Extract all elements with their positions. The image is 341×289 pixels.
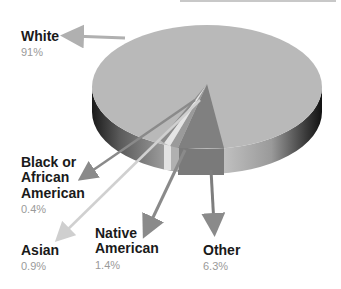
- label-black-name-3: American: [21, 186, 85, 201]
- label-other-value: 6.3%: [203, 260, 240, 272]
- label-other: Other 6.3%: [203, 243, 240, 272]
- label-black-name-2: African: [21, 170, 85, 185]
- label-black-value: 0.4%: [21, 203, 85, 215]
- label-native-name-1: Native: [95, 226, 159, 241]
- label-white: White 91%: [21, 29, 59, 58]
- label-native-value: 1.4%: [95, 259, 159, 271]
- arrow-white: [72, 36, 125, 38]
- label-white-name: White: [21, 29, 59, 44]
- label-native-name-2: American: [95, 241, 159, 256]
- label-asian-name: Asian: [21, 243, 59, 258]
- label-asian-value: 0.9%: [21, 260, 59, 272]
- label-black-name-1: Black or: [21, 155, 85, 170]
- label-white-value: 91%: [21, 46, 59, 58]
- label-black: Black or African American 0.4%: [21, 155, 85, 215]
- label-other-name: Other: [203, 243, 240, 258]
- label-asian: Asian 0.9%: [21, 243, 59, 272]
- label-native: Native American 1.4%: [95, 226, 159, 271]
- arrow-other: [211, 170, 214, 225]
